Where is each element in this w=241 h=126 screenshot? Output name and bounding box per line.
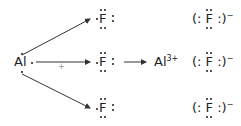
fluorine-atom-bottom: F xyxy=(99,101,106,115)
aluminium-atom: Al xyxy=(14,55,27,69)
electron-dot xyxy=(21,53,23,55)
electron-dot xyxy=(21,71,23,73)
fluorine-atom-middle: F xyxy=(99,55,106,69)
fluoride-anion-top: (: F :)− xyxy=(192,12,233,26)
aluminium-cation: Al3+ xyxy=(154,55,178,69)
cation-charge: 3+ xyxy=(167,54,179,63)
fluoride-anion-bottom: (: F :)− xyxy=(192,101,233,115)
fluoride-anion-middle: (: F :)− xyxy=(192,55,233,69)
aluminium-symbol: Al xyxy=(14,54,27,69)
electron-dot xyxy=(31,62,33,64)
fluorine-atom-top: F xyxy=(99,12,106,26)
arrow-to-bottom-fluorine xyxy=(22,74,90,108)
plus-sign: + xyxy=(58,62,65,71)
arrow-to-top-fluorine xyxy=(22,19,90,55)
